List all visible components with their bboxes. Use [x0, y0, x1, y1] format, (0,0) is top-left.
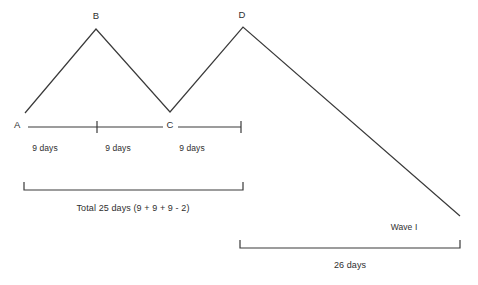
point-label-a: A	[14, 120, 21, 130]
wave-diagram: A B C D 9 days 9 days 9 days Total 25 da…	[0, 0, 478, 285]
point-label-c: C	[166, 120, 173, 130]
bracket-26-days	[240, 240, 460, 248]
diagram-canvas	[0, 0, 478, 285]
bracket-total-25-days	[24, 182, 243, 190]
bottom-days-label: 26 days	[334, 261, 366, 270]
segment-label-2: 9 days	[105, 144, 131, 153]
wave-one-label: Wave I	[391, 223, 418, 232]
segment-label-1: 9 days	[32, 144, 58, 153]
segment-label-3: 9 days	[179, 144, 205, 153]
point-label-b: B	[93, 11, 100, 21]
total-days-label: Total 25 days (9 + 9 + 9 - 2)	[77, 204, 190, 213]
point-label-d: D	[238, 10, 245, 20]
